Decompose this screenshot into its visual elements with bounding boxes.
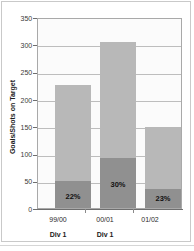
bar-segment-shots-on-target <box>55 85 91 181</box>
x-label-99-00: 99/00 <box>36 216 80 224</box>
x-tick-mark-1 <box>85 209 86 213</box>
x-label-00-01: 00/01 <box>83 216 127 224</box>
bar-99-00[interactable]: 22% <box>55 85 91 208</box>
bar-percent-label: 22% <box>55 192 91 201</box>
bar-percent-label: 23% <box>145 194 181 203</box>
chart-page: Goals/Shots on Target 350 300 250 200 15… <box>0 0 194 251</box>
y-tick-label-350: 350 <box>2 15 32 22</box>
bar-percent-label: 30% <box>100 180 136 189</box>
y-axis-tick-labels: 350 300 250 200 150 100 50 0 <box>0 0 32 251</box>
y-tick-label-50: 50 <box>2 178 32 185</box>
x-tick-mark-2 <box>133 209 134 213</box>
y-tick-label-150: 150 <box>2 124 32 131</box>
bar-segment-shots-on-target <box>100 42 136 158</box>
page-bottom-strip <box>0 245 194 251</box>
y-tick-label-300: 300 <box>2 42 32 49</box>
y-tick-label-100: 100 <box>2 151 32 158</box>
bar-00-01[interactable]: 30% <box>100 42 136 208</box>
x-sublabel-div-99-00: Div 1 <box>36 231 80 239</box>
x-label-01-02: 01/02 <box>128 216 172 224</box>
x-axis-line <box>33 209 183 210</box>
y-tick-label-200: 200 <box>2 97 32 104</box>
x-sublabel-div-00-01: Div 1 <box>83 231 127 239</box>
plot-area: 22% 30% 23% <box>37 18 182 209</box>
bar-01-02[interactable]: 23% <box>145 127 181 208</box>
bar-segment-shots-on-target <box>145 127 181 189</box>
y-tick-label-0: 0 <box>2 206 32 213</box>
y-tick-label-250: 250 <box>2 69 32 76</box>
